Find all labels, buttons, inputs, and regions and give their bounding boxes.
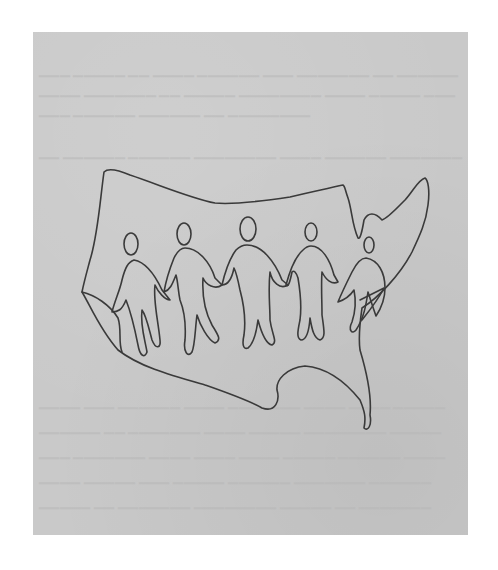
figure-3 [222, 217, 288, 348]
figure-2 [164, 223, 222, 354]
figure-5 [338, 237, 385, 332]
usa-map-drawing [0, 0, 498, 570]
figure-4 [286, 223, 338, 340]
